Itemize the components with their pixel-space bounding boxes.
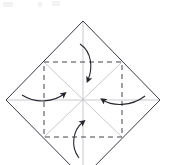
top-artifact-3 (52, 1, 60, 6)
center-point-marker (82, 99, 83, 100)
light-crease-group (6, 21, 160, 165)
fold-arrow-bottom (74, 122, 83, 158)
top-artifact-1 (3, 2, 13, 7)
origami-fold-figure: Origami fold step: fold four corners to … (0, 0, 170, 165)
top-artifact-2 (38, 2, 42, 7)
fold-diagram-canvas: Origami fold step: fold four corners to … (0, 0, 170, 165)
